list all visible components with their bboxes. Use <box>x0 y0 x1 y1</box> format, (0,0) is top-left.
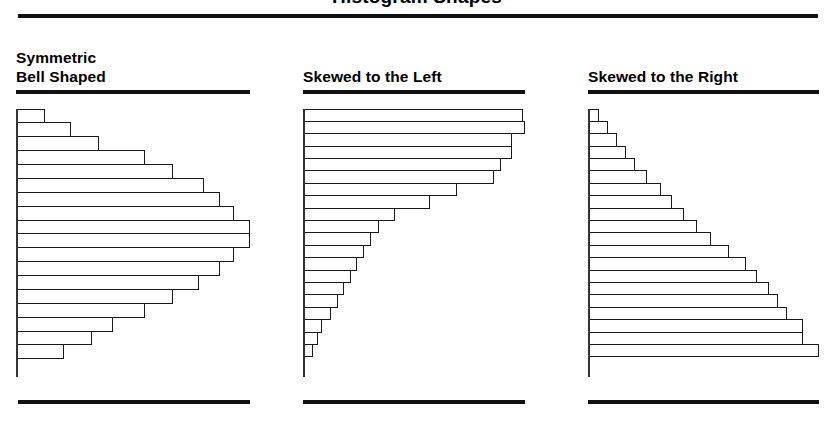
bar <box>18 317 113 332</box>
bar <box>305 220 380 233</box>
chart-bars-3 <box>590 109 820 377</box>
bar <box>590 270 758 283</box>
bar <box>18 109 46 124</box>
bar <box>590 121 608 134</box>
panel-title-skewed-to-the-right: Skewed to the Right <box>588 34 819 86</box>
bar <box>590 109 599 122</box>
chart-symmetric-bell-shaped <box>16 109 250 377</box>
bar <box>18 192 220 207</box>
bar <box>18 247 234 262</box>
bar <box>18 303 146 318</box>
bar <box>305 282 345 295</box>
bar <box>18 261 220 276</box>
bar <box>590 170 647 183</box>
bar <box>590 307 787 320</box>
bar <box>18 136 99 151</box>
panel-title-underline-3 <box>588 90 819 94</box>
bar <box>590 146 627 159</box>
chart-skewed-to-the-left <box>303 109 525 377</box>
bar <box>305 133 512 146</box>
bar <box>590 282 769 295</box>
bar <box>590 195 673 208</box>
panel-title-underline-1 <box>16 90 250 94</box>
bar <box>590 319 803 332</box>
bar <box>305 183 457 196</box>
bar <box>305 109 523 122</box>
panel-symmetric-bell-shaped: Symmetric Bell Shaped <box>16 34 250 377</box>
panel-skewed-to-the-right: Skewed to the Right <box>588 34 819 377</box>
bar <box>305 270 351 283</box>
figure-title-strip: Histogram Shapes <box>0 0 834 12</box>
bar <box>590 220 698 233</box>
bar <box>305 158 501 171</box>
bar <box>18 344 65 359</box>
bar <box>305 257 358 270</box>
bar <box>305 294 338 307</box>
bar <box>18 331 92 346</box>
bar <box>305 146 512 159</box>
bar <box>18 220 251 235</box>
bar <box>590 344 820 357</box>
panel-skewed-to-the-left: Skewed to the Left <box>303 34 525 377</box>
bar <box>18 206 234 221</box>
bar <box>590 294 778 307</box>
bar <box>590 158 636 171</box>
bar <box>18 233 251 248</box>
bar <box>590 208 684 221</box>
bar <box>18 122 71 137</box>
bar <box>18 178 204 193</box>
bar <box>305 332 318 345</box>
bottom-divider-rule-3 <box>588 400 819 404</box>
bar <box>305 232 371 245</box>
bar <box>305 121 526 134</box>
bar <box>18 150 146 165</box>
bar <box>305 307 331 320</box>
chart-bars-1 <box>18 109 251 377</box>
chart-bars-2 <box>305 109 526 377</box>
chart-skewed-to-the-right <box>588 109 819 377</box>
bar <box>305 195 431 208</box>
bar <box>305 170 495 183</box>
bar <box>590 232 712 245</box>
bar <box>18 275 199 290</box>
bar <box>305 319 323 332</box>
bar <box>590 183 661 196</box>
bar <box>305 344 314 357</box>
bottom-divider-rule-1 <box>18 400 250 404</box>
bar <box>590 332 803 345</box>
panel-title-symmetric-bell-shaped: Symmetric Bell Shaped <box>16 34 250 86</box>
panel-title-underline-2 <box>303 90 525 94</box>
bottom-divider-rule-2 <box>303 400 525 404</box>
histogram-shapes-figure: Histogram Shapes Symmetric Bell Shaped S… <box>0 0 834 422</box>
bar <box>305 208 395 221</box>
bar <box>590 133 618 146</box>
bar <box>590 257 746 270</box>
bar <box>18 164 174 179</box>
bar <box>305 245 365 258</box>
figure-title: Histogram Shapes <box>332 0 502 8</box>
bar <box>18 289 174 304</box>
panel-title-skewed-to-the-left: Skewed to the Left <box>303 34 525 86</box>
bar <box>590 245 730 258</box>
top-divider-rule <box>18 14 818 18</box>
